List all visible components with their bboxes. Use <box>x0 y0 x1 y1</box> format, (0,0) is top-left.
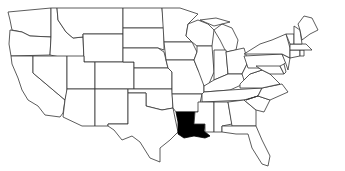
state-massachusetts <box>290 44 312 50</box>
state-new-mexico <box>95 89 128 126</box>
state-new-york <box>244 34 290 58</box>
us-states-map <box>0 0 345 171</box>
state-rhode-island <box>300 50 304 56</box>
state-north-dakota <box>123 8 164 28</box>
state-arkansas <box>172 94 202 112</box>
state-florida <box>222 126 270 166</box>
state-arizona <box>63 89 95 126</box>
state-kansas <box>134 68 172 89</box>
state-south-dakota <box>123 28 164 50</box>
state-maine <box>298 16 318 40</box>
state-wyoming <box>83 34 123 62</box>
state-colorado <box>95 62 134 89</box>
state-iowa <box>164 42 197 60</box>
state-connecticut <box>290 50 300 58</box>
